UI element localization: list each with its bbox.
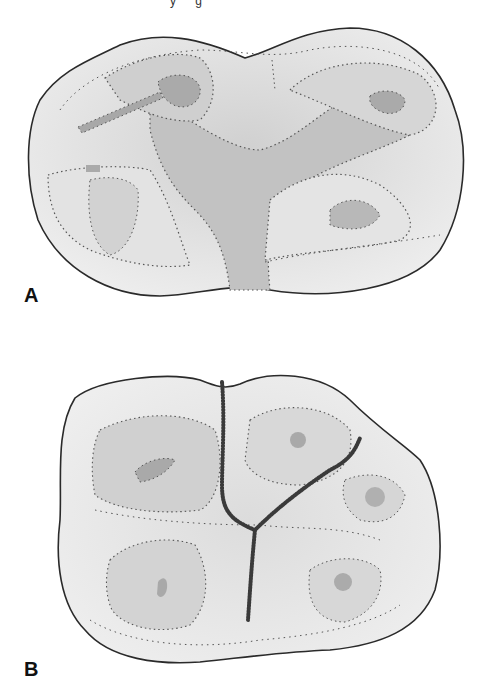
pit-mark-a (86, 165, 100, 172)
fossa-pit-b3 (365, 487, 385, 507)
tooth-a-illustration (0, 0, 488, 320)
figure-label-b: B (24, 658, 38, 681)
figure-label-a: A (24, 284, 38, 307)
cusp-mesiolingual-b (106, 540, 205, 630)
fossa-pit-b2 (290, 432, 306, 448)
figure-a: A (0, 0, 488, 320)
fossa-pit-b5 (334, 573, 352, 591)
figure-b: B (0, 360, 488, 696)
tooth-b-illustration (0, 360, 488, 696)
